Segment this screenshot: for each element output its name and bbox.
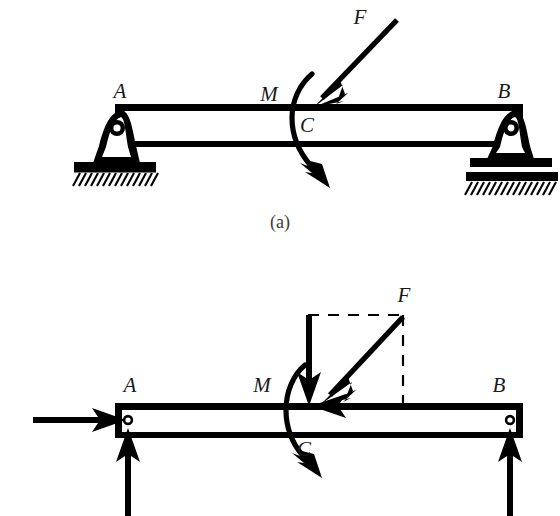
reaction-arrow-A-horizontal-b bbox=[33, 408, 126, 432]
roller-support-a-right bbox=[465, 110, 558, 195]
force-component-vertical-arrow-b bbox=[297, 315, 321, 406]
force-component-vertical-shaft bbox=[306, 315, 312, 387]
reaction-arrow-A-vertical-b bbox=[116, 428, 140, 516]
label-A-a: A bbox=[112, 79, 127, 103]
pin-support-a-left bbox=[73, 110, 158, 186]
roller-support-right-hole bbox=[508, 125, 515, 132]
beam-a-bottom-flange bbox=[115, 141, 523, 147]
label-B-b: B bbox=[493, 373, 506, 397]
beam-b-right-end bbox=[516, 403, 523, 438]
reaction-arrow-A-horizontal-shaft bbox=[33, 417, 105, 423]
reaction-arrow-B-vertical-shaft bbox=[507, 446, 513, 516]
beam-b-bottom-flange bbox=[115, 432, 523, 438]
roller-support-right-lower-plate bbox=[466, 172, 558, 181]
force-arrow-F-b bbox=[320, 317, 403, 405]
reaction-arrow-B-vertical-b bbox=[498, 428, 522, 516]
label-C-a: C bbox=[300, 113, 315, 137]
ground-hatch-left bbox=[73, 172, 158, 186]
pin-support-left-hole bbox=[113, 124, 120, 131]
beam-a bbox=[115, 104, 523, 147]
hinge-dot-B-b bbox=[505, 415, 515, 425]
roller-support-right-upper-plate bbox=[470, 158, 552, 167]
panel-b: A B F M C bbox=[33, 283, 523, 516]
force-arrow-F-a-shaft bbox=[322, 20, 397, 98]
reaction-arrow-A-vertical-shaft bbox=[125, 446, 131, 516]
label-F-b: F bbox=[397, 283, 411, 307]
label-B-a: B bbox=[498, 79, 511, 103]
force-component-horizontal-shaft bbox=[330, 403, 404, 409]
force-arrow-F-a bbox=[314, 20, 397, 107]
caption-panel-a: (a) bbox=[270, 212, 290, 233]
label-F-a: F bbox=[353, 5, 367, 29]
force-component-horizontal-arrow-b bbox=[311, 394, 404, 418]
label-M-a: M bbox=[259, 82, 279, 106]
panel-a: A B F M C (a) bbox=[73, 5, 558, 233]
ground-hatch-right bbox=[465, 182, 556, 195]
label-M-b: M bbox=[252, 373, 272, 397]
figure-canvas: A B F M C (a) bbox=[0, 0, 560, 516]
pin-support-left-baseplate bbox=[74, 162, 156, 172]
label-A-b: A bbox=[122, 373, 137, 397]
force-arrow-F-b-shaft bbox=[330, 317, 403, 395]
label-C-b: C bbox=[297, 437, 312, 461]
